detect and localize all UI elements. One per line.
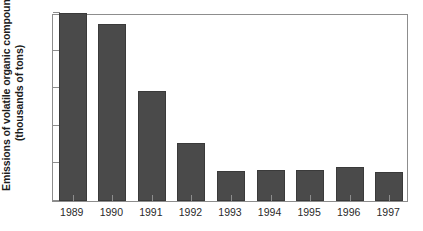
x-axis-tick: [191, 195, 192, 201]
x-axis-tick: [350, 195, 351, 201]
x-axis-tick: [310, 195, 311, 201]
x-axis-tick: [271, 195, 272, 201]
plot-area: 03691215: [52, 14, 408, 202]
bar: [59, 13, 87, 201]
x-axis-tick: [73, 195, 74, 201]
y-axis-title: Emissions of volatile organic compounds …: [0, 0, 40, 191]
y-axis-title-line-2: (thousands of tons): [13, 0, 26, 191]
bar: [98, 24, 126, 201]
x-axis-tick: [231, 195, 232, 201]
bar: [177, 143, 205, 201]
x-axis-tick: [152, 195, 153, 201]
bar: [138, 91, 166, 201]
x-axis-tick: [389, 195, 390, 201]
x-axis-tick-label: 1997: [358, 207, 418, 218]
y-axis-title-line-1: Emissions of volatile organic compounds: [0, 0, 13, 191]
bar-chart: Emissions of volatile organic compounds …: [0, 0, 423, 231]
x-axis-tick: [112, 195, 113, 201]
